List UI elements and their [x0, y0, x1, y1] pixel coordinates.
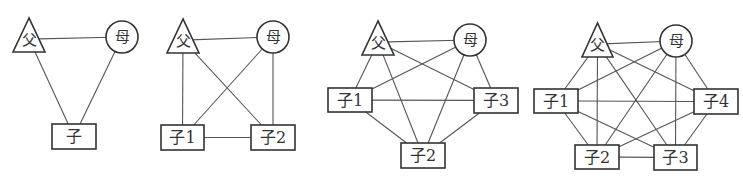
- node-label: 子2: [584, 148, 610, 167]
- node-label: 父: [22, 31, 37, 49]
- node-C2: 子2: [401, 143, 445, 168]
- diagram-family-1-child: 父母子: [13, 18, 138, 149]
- node-M: 母: [106, 21, 138, 53]
- node-C2: 子2: [251, 125, 295, 150]
- edge-C3-C4: [685, 114, 707, 145]
- node-label: 子1: [337, 91, 363, 110]
- node-label: 子1: [543, 92, 569, 111]
- node-label: 子3: [483, 91, 509, 110]
- node-label: 父: [590, 36, 605, 54]
- node-label: 父: [371, 34, 386, 52]
- diagram-family-4-children: 父母子1子2子3子4: [534, 23, 738, 170]
- edge-C2-C4: [619, 112, 694, 147]
- node-label: 母: [115, 28, 130, 46]
- family-communication-diagrams: 父母子父母子1子2父母子1子2子3父母子1子2子3子4: [0, 0, 743, 179]
- diagram-family-2-children: 父母子1子2: [161, 19, 295, 150]
- node-M: 母: [660, 25, 692, 57]
- edge-C1-C2: [565, 113, 588, 145]
- node-label: 子2: [410, 146, 436, 165]
- node-C3: 子3: [654, 145, 697, 170]
- node-F: 父: [13, 18, 45, 52]
- node-label: 母: [463, 31, 478, 49]
- edge-C1-C2: [366, 112, 407, 143]
- node-label: 子3: [662, 148, 688, 167]
- node-label: 父: [176, 32, 191, 50]
- edge-C1-C3: [578, 111, 654, 147]
- edge-F-C2: [378, 42, 418, 143]
- diagram-family-3-children: 父母子1子2子3: [328, 21, 518, 168]
- node-M: 母: [454, 24, 486, 56]
- node-C3: 子3: [474, 88, 518, 113]
- node-F: 父: [362, 21, 394, 55]
- node-C: 子: [52, 124, 96, 149]
- node-label: 母: [669, 32, 684, 50]
- node-label: 母: [266, 28, 281, 46]
- node-C2: 子2: [575, 145, 619, 169]
- node-label: 子4: [703, 92, 729, 111]
- node-C1: 子1: [161, 125, 204, 150]
- node-M: 母: [257, 21, 289, 53]
- node-C1: 子1: [328, 88, 372, 112]
- edge-F-C3: [598, 44, 667, 145]
- node-label: 子1: [169, 128, 195, 147]
- edge-C2-C3: [440, 113, 480, 143]
- node-C1: 子1: [534, 89, 578, 113]
- node-label: 子2: [260, 128, 286, 147]
- node-C4: 子4: [694, 89, 738, 114]
- node-label: 子: [66, 127, 82, 146]
- edge-M-C1: [194, 37, 273, 125]
- node-F: 父: [167, 19, 199, 53]
- node-F: 父: [582, 23, 613, 57]
